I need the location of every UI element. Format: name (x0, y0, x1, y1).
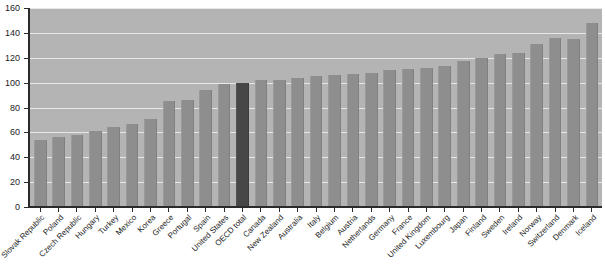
x-label-slot: Portugal (178, 212, 196, 270)
x-label-slot: Mexico (123, 212, 141, 270)
y-axis-tick: 20 (24, 182, 29, 183)
bar[interactable] (530, 44, 543, 207)
x-label-slot: Australia (288, 212, 306, 270)
bar-slot (436, 8, 454, 207)
y-axis-tick-label: 0 (15, 202, 20, 212)
bar-slot (197, 8, 215, 207)
x-label-slot: Ireland (509, 212, 527, 270)
bar-slot (160, 8, 178, 207)
bar-slot (123, 8, 141, 207)
bar[interactable] (236, 83, 249, 207)
bar[interactable] (310, 76, 323, 207)
bar-chart: 020406080100120140160 Slovak RepublicPol… (0, 0, 605, 270)
y-axis-tick-label: 60 (10, 127, 20, 137)
plot-area (30, 8, 602, 207)
y-axis-tick-label: 140 (5, 28, 20, 38)
bar[interactable] (52, 137, 65, 207)
bar[interactable] (291, 78, 304, 207)
y-axis-tick: 120 (24, 58, 29, 59)
bar-slot (399, 8, 417, 207)
y-axis-tick: 80 (24, 108, 29, 109)
x-label-slot: Czech Republic (68, 212, 86, 270)
bar-slot (528, 8, 546, 207)
bar-slot (380, 8, 398, 207)
y-axis: 020406080100120140160 (28, 8, 30, 207)
bar[interactable] (144, 119, 157, 207)
y-axis-tick-label: 40 (10, 152, 20, 162)
x-label-slot: New Zealand (270, 212, 288, 270)
bar-slot (49, 8, 67, 207)
bar-slot (583, 8, 601, 207)
bar[interactable] (494, 54, 507, 207)
bar-slot (270, 8, 288, 207)
x-label-slot: OECD total (233, 212, 251, 270)
y-axis-tick-label: 120 (5, 53, 20, 63)
bar-slot (31, 8, 49, 207)
bar[interactable] (218, 84, 231, 207)
bar-slot (178, 8, 196, 207)
bar[interactable] (89, 131, 102, 207)
bar-slot (325, 8, 343, 207)
bar-slot (215, 8, 233, 207)
bar[interactable] (457, 61, 470, 207)
bar-slot (362, 8, 380, 207)
bar[interactable] (383, 70, 396, 207)
x-label-slot: Italy (307, 212, 325, 270)
y-axis-tick: 40 (24, 157, 29, 158)
y-axis-tick-label: 100 (5, 78, 20, 88)
bar[interactable] (273, 80, 286, 207)
bar[interactable] (347, 74, 360, 207)
bar[interactable] (199, 90, 212, 207)
y-axis-tick: 60 (24, 132, 29, 133)
bar-slot (86, 8, 104, 207)
bar[interactable] (438, 66, 451, 207)
bar[interactable] (567, 39, 580, 207)
bar-slot (68, 8, 86, 207)
bar-slot (233, 8, 251, 207)
bar[interactable] (402, 69, 415, 207)
bar[interactable] (163, 101, 176, 207)
bar-slot (454, 8, 472, 207)
x-label-slot: Iceland (583, 212, 601, 270)
bar[interactable] (365, 73, 378, 207)
y-axis-tick-label: 20 (10, 177, 20, 187)
x-label-slot: Hungary (86, 212, 104, 270)
bar[interactable] (34, 140, 47, 207)
x-label-slot: Turkey (105, 212, 123, 270)
x-label-slot: Greece (160, 212, 178, 270)
bar[interactable] (328, 75, 341, 207)
bars-container (30, 8, 602, 207)
bar-slot (288, 8, 306, 207)
bar-slot (141, 8, 159, 207)
x-axis-labels: Slovak RepublicPolandCzech RepublicHunga… (30, 212, 602, 270)
bar-slot (307, 8, 325, 207)
x-label-slot: Belgium (325, 212, 343, 270)
bar-slot (252, 8, 270, 207)
bar[interactable] (255, 80, 268, 207)
chart-title (0, 0, 605, 2)
x-label-slot: Japan (454, 212, 472, 270)
bar[interactable] (475, 58, 488, 207)
bar[interactable] (586, 23, 599, 207)
x-label-slot: Korea (141, 212, 159, 270)
y-axis-tick: 160 (24, 8, 29, 9)
bar-slot (472, 8, 490, 207)
bar[interactable] (71, 135, 84, 207)
bar-slot (105, 8, 123, 207)
y-axis-tick-label: 80 (10, 103, 20, 113)
y-axis-tick-label: 160 (5, 3, 20, 13)
x-label-slot: Sweden (491, 212, 509, 270)
bar[interactable] (549, 38, 562, 207)
bar[interactable] (181, 100, 194, 207)
x-label-slot: Slovak Republic (31, 212, 49, 270)
x-label-slot: Denmark (564, 212, 582, 270)
bar-slot (491, 8, 509, 207)
bar-slot (564, 8, 582, 207)
bar-slot (344, 8, 362, 207)
bar[interactable] (126, 124, 139, 207)
bar[interactable] (420, 68, 433, 207)
bar-slot (417, 8, 435, 207)
bar[interactable] (107, 127, 120, 207)
y-axis-tick: 100 (24, 83, 29, 84)
bar[interactable] (512, 53, 525, 207)
